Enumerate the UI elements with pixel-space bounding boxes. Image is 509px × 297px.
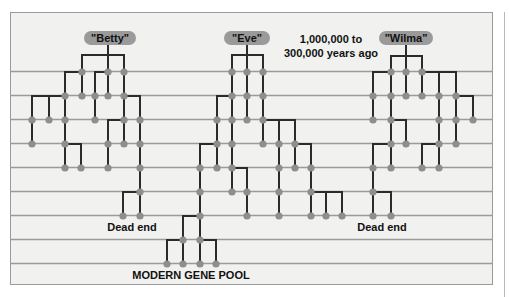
- descendant-node: [213, 116, 220, 123]
- descendant-node: [61, 140, 68, 147]
- descendant-node: [291, 164, 298, 171]
- descendant-node: [91, 92, 98, 99]
- lineage-trees: "Betty""Eve""Wilma": [28, 31, 476, 268]
- descendant-node: [418, 92, 425, 99]
- descendant-node: [45, 116, 52, 123]
- descendant-node: [418, 164, 425, 171]
- descendant-node: [104, 68, 111, 75]
- descendant-node: [228, 140, 235, 147]
- descendant-node: [61, 116, 68, 123]
- descendant-node: [104, 164, 111, 171]
- descendant-node: [291, 140, 298, 147]
- descendant-node: [307, 164, 314, 171]
- descendant-node: [228, 164, 235, 171]
- descendant-node: [259, 140, 266, 147]
- descendant-node: [307, 212, 314, 219]
- lineage-tree-canvas: "Betty""Eve""Wilma" 1,000,000 to 300,000…: [0, 0, 509, 297]
- descendant-node: [196, 236, 203, 243]
- descendant-node: [120, 92, 127, 99]
- descendant-node: [452, 116, 459, 123]
- descendant-node: [338, 212, 345, 219]
- descendant-node: [196, 260, 203, 267]
- descendant-node: [136, 164, 143, 171]
- descendant-node: [259, 116, 266, 123]
- descendant-node: [136, 140, 143, 147]
- descendant-node: [28, 116, 35, 123]
- descendant-node: [228, 92, 235, 99]
- ancestor-name-wilma: "Wilma": [385, 32, 428, 44]
- descendant-node: [275, 212, 282, 219]
- descendant-node: [369, 164, 376, 171]
- descendant-node: [435, 140, 442, 147]
- descendant-node: [418, 68, 425, 75]
- dead-end-label-betty: Dead end: [107, 221, 157, 233]
- descendant-node: [387, 92, 394, 99]
- descendant-node: [78, 68, 85, 75]
- descendant-node: [136, 188, 143, 195]
- descendant-node: [369, 92, 376, 99]
- time-range-line1: 1,000,000 to: [300, 33, 363, 45]
- descendant-node: [163, 260, 170, 267]
- descendant-node: [243, 92, 250, 99]
- descendant-node: [387, 68, 394, 75]
- descendant-node: [120, 68, 127, 75]
- descendant-node: [213, 164, 220, 171]
- descendant-node: [307, 188, 314, 195]
- descendant-node: [322, 212, 329, 219]
- ancestor-name-eve: "Eve": [232, 32, 262, 44]
- time-range-line2: 300,000 years ago: [284, 47, 378, 59]
- descendant-node: [452, 140, 459, 147]
- descendant-node: [402, 92, 409, 99]
- ancestor-name-betty: "Betty": [91, 32, 129, 44]
- descendant-node: [196, 164, 203, 171]
- descendant-node: [120, 140, 127, 147]
- descendant-node: [243, 116, 250, 123]
- gene-lineage-diagram: "Betty""Eve""Wilma" 1,000,000 to 300,000…: [0, 0, 509, 297]
- descendant-node: [119, 212, 126, 219]
- descendant-node: [387, 164, 394, 171]
- descendant-node: [78, 92, 85, 99]
- descendant-node: [369, 116, 376, 123]
- descendant-node: [179, 236, 186, 243]
- dead-end-label-wilma: Dead end: [357, 221, 407, 233]
- descendant-node: [259, 68, 266, 75]
- descendant-node: [228, 188, 235, 195]
- descendant-node: [387, 140, 394, 147]
- descendant-node: [91, 116, 98, 123]
- descendant-node: [387, 212, 394, 219]
- descendant-node: [28, 140, 35, 147]
- descendant-node: [435, 92, 442, 99]
- descendant-node: [387, 116, 394, 123]
- descendant-node: [228, 68, 235, 75]
- descendant-node: [275, 188, 282, 195]
- descendant-node: [369, 212, 376, 219]
- modern-gene-pool-label: MODERN GENE POOL: [132, 269, 250, 281]
- descendant-node: [259, 92, 266, 99]
- descendant-node: [452, 92, 459, 99]
- descendant-node: [136, 212, 143, 219]
- descendant-node: [402, 68, 409, 75]
- descendant-node: [61, 92, 68, 99]
- descendant-node: [275, 140, 282, 147]
- descendant-node: [469, 116, 476, 123]
- descendant-node: [212, 260, 219, 267]
- descendant-node: [369, 188, 376, 195]
- descendant-node: [243, 212, 250, 219]
- descendant-node: [196, 188, 203, 195]
- descendant-node: [120, 116, 127, 123]
- descendant-node: [213, 140, 220, 147]
- descendant-node: [104, 140, 111, 147]
- descendant-node: [435, 116, 442, 123]
- descendant-node: [104, 92, 111, 99]
- descendant-node: [435, 164, 442, 171]
- descendant-node: [243, 188, 250, 195]
- descendant-node: [77, 164, 84, 171]
- descendant-node: [136, 116, 143, 123]
- descendant-node: [243, 68, 250, 75]
- descendant-node: [275, 164, 282, 171]
- descendant-node: [179, 260, 186, 267]
- descendant-node: [402, 140, 409, 147]
- descendant-node: [61, 164, 68, 171]
- lineage-tree-eve: "Eve": [163, 31, 345, 268]
- descendant-node: [196, 212, 203, 219]
